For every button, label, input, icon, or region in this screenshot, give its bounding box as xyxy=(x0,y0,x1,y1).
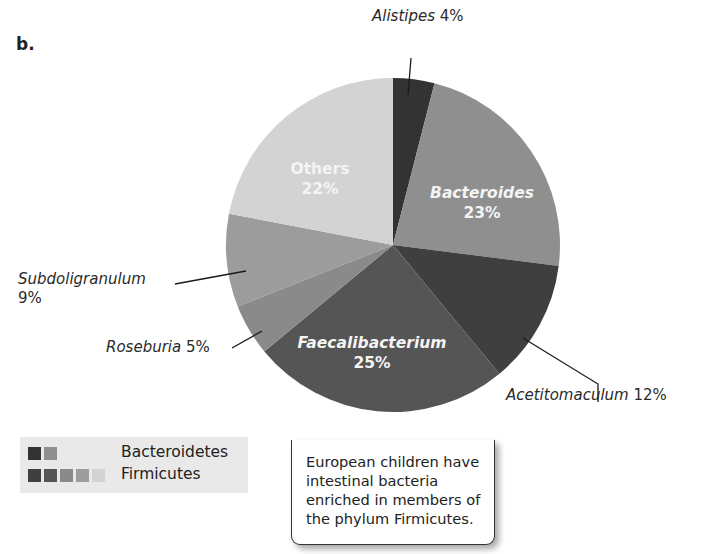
swatch-others xyxy=(92,469,105,482)
label-roseburia: Roseburia 5% xyxy=(106,338,210,357)
swatch-acetitomaculum xyxy=(28,469,41,482)
label-faecalibacterium: Faecalibacterium25% xyxy=(292,333,452,373)
legend: Bacteroidetes Firmicutes xyxy=(20,437,248,493)
swatch-bacteroides xyxy=(44,447,57,460)
legend-swatches-firmicutes xyxy=(28,467,108,483)
callout-box: European children have intestinal bacter… xyxy=(291,440,495,545)
swatch-subdoligranulum xyxy=(76,469,89,482)
label-bacteroides: Bacteroides23% xyxy=(427,183,537,223)
label-subdoligranulum: Subdoligranulum9% xyxy=(18,270,146,308)
legend-swatches-bacteroidetes xyxy=(28,445,60,461)
swatch-alistipes xyxy=(28,447,41,460)
label-acetitomaculum: Acetitomaculum 12% xyxy=(506,386,667,405)
legend-label-bacteroidetes: Bacteroidetes xyxy=(121,442,228,462)
legend-label-firmicutes: Firmicutes xyxy=(121,464,201,484)
label-others: Others22% xyxy=(285,159,355,199)
label-alistipes: Alistipes 4% xyxy=(372,7,464,26)
swatch-roseburia xyxy=(60,469,73,482)
swatch-faecalibacterium xyxy=(44,469,57,482)
